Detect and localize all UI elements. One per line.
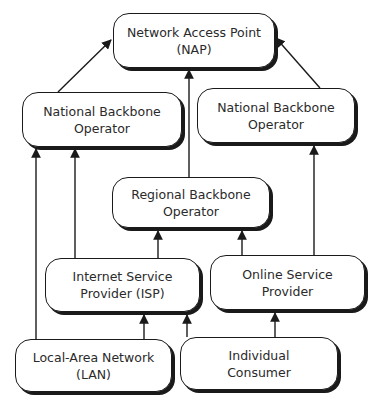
node-regional-line1: Regional Backbone	[131, 186, 250, 203]
node-osp-line1: Online Service	[242, 266, 333, 283]
node-nbo-left-line1: National Backbone	[43, 103, 161, 120]
node-national-backbone-right: National Backbone Operator	[197, 88, 355, 143]
node-nap-line1: Network Access Point	[127, 24, 261, 41]
node-nbo-left-line2: Operator	[74, 120, 130, 137]
edge-nbo-right-to-nap	[276, 38, 320, 88]
node-isp-line2: Provider (ISP)	[80, 285, 164, 302]
node-lan-line2: (LAN)	[76, 366, 111, 383]
node-nbo-right-line2: Operator	[248, 116, 304, 133]
edge-nbo-left-to-nap	[58, 40, 111, 92]
node-lan-line1: Local-Area Network	[33, 349, 155, 366]
node-individual-consumer: Individual Consumer	[180, 337, 338, 390]
node-nap-line2: (NAP)	[176, 41, 211, 58]
node-consumer-line1: Individual	[229, 347, 290, 364]
node-isp-line1: Internet Service	[73, 268, 173, 285]
node-nbo-right-line1: National Backbone	[217, 99, 335, 116]
node-isp: Internet Service Provider (ISP)	[45, 258, 200, 312]
node-osp-line2: Provider	[262, 283, 313, 300]
node-online-service-provider: Online Service Provider	[210, 255, 365, 310]
node-regional-backbone: Regional Backbone Operator	[112, 177, 270, 228]
node-nap: Network Access Point (NAP)	[113, 13, 275, 68]
node-lan: Local-Area Network (LAN)	[15, 339, 172, 392]
node-consumer-line2: Consumer	[227, 364, 291, 381]
node-regional-line2: Operator	[163, 203, 219, 220]
node-national-backbone-left: National Backbone Operator	[22, 92, 182, 147]
